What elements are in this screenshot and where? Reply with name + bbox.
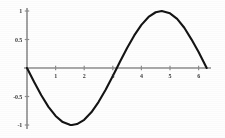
x-tick-label: 2 (83, 73, 86, 79)
sine-plot-svg (0, 0, 225, 138)
x-tick-label: 5 (169, 73, 172, 79)
x-tick-label: 3 (111, 73, 114, 79)
y-tick-label: 0.5 (0, 37, 22, 43)
y-tick-label: 1 (0, 8, 22, 14)
x-tick-label: 1 (54, 73, 57, 79)
y-tick-label: -0.5 (0, 94, 22, 100)
x-tick-label: 4 (140, 73, 143, 79)
chart-figure: 123456 10.5-0.5-1 (0, 0, 225, 138)
y-tick-label: -1 (0, 122, 22, 128)
x-tick-label: 6 (197, 73, 200, 79)
